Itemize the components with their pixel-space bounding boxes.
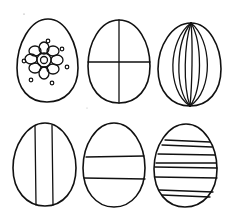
vertical-line bbox=[52, 125, 53, 205]
band-bottom-line bbox=[84, 178, 145, 179]
egg-cross[interactable] bbox=[88, 20, 150, 103]
speck bbox=[23, 13, 24, 14]
flower-icon bbox=[25, 42, 63, 79]
vertical-line bbox=[35, 126, 36, 205]
band-top-line bbox=[86, 156, 144, 157]
egg-outline bbox=[83, 123, 145, 207]
egg-band[interactable] bbox=[83, 123, 145, 207]
meridian-lines bbox=[173, 23, 208, 106]
stripe-lines bbox=[155, 140, 217, 197]
egg-flower[interactable] bbox=[17, 19, 78, 102]
egg-outline bbox=[158, 23, 221, 106]
egg-stripes[interactable] bbox=[154, 124, 217, 207]
coloring-sheet bbox=[0, 0, 227, 219]
egg-vertical-stripes[interactable] bbox=[13, 123, 76, 206]
egg-outline bbox=[13, 123, 76, 206]
speck bbox=[87, 108, 88, 109]
egg-meridians[interactable] bbox=[158, 23, 221, 106]
